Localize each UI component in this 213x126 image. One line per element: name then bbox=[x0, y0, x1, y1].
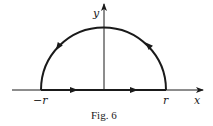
y-axis-label: y bbox=[92, 7, 100, 20]
segment-arrow-icon bbox=[70, 87, 78, 93]
left-endpoint-label: −r bbox=[33, 94, 48, 107]
segment-arrow-icon bbox=[130, 87, 138, 93]
x-axis-label: x bbox=[194, 94, 201, 107]
figure-6: y x −r r Fig. 6 bbox=[0, 0, 213, 126]
contour-diagram: y x −r r Fig. 6 bbox=[0, 0, 213, 126]
right-endpoint-label: r bbox=[163, 94, 169, 107]
figure-caption: Fig. 6 bbox=[91, 109, 117, 121]
